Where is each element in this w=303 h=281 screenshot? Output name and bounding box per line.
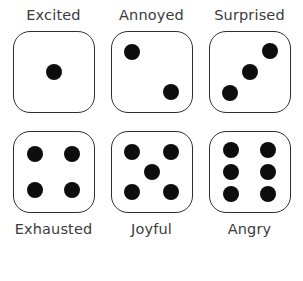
die-cell-joyful[interactable]: Joyful bbox=[109, 131, 194, 239]
die-cell-excited[interactable]: Excited bbox=[11, 6, 96, 113]
die-face-annoyed[interactable] bbox=[111, 31, 193, 113]
die-pip bbox=[124, 44, 140, 60]
die-face-surprised[interactable] bbox=[209, 31, 291, 113]
die-pip bbox=[46, 64, 62, 80]
die-label-joyful: Joyful bbox=[131, 220, 172, 239]
die-pip bbox=[64, 182, 80, 198]
die-pip bbox=[262, 43, 278, 59]
die-pip bbox=[223, 142, 239, 158]
die-pip bbox=[124, 184, 140, 200]
die-cell-angry[interactable]: Angry bbox=[207, 131, 292, 239]
die-pip bbox=[163, 144, 179, 160]
die-pip bbox=[27, 182, 43, 198]
die-cell-exhausted[interactable]: Exhausted bbox=[11, 131, 96, 239]
die-pip bbox=[163, 84, 179, 100]
die-pip bbox=[124, 144, 140, 160]
die-pip bbox=[223, 164, 239, 180]
die-pip bbox=[27, 146, 43, 162]
die-pip bbox=[144, 164, 160, 180]
die-pip bbox=[260, 142, 276, 158]
die-pip bbox=[260, 164, 276, 180]
emotion-dice-board: Excited Annoyed Surprised Exhausted Joyf… bbox=[0, 0, 303, 281]
dice-row-bottom: Exhausted Joyful Angry bbox=[0, 113, 303, 239]
die-label-annoyed: Annoyed bbox=[119, 6, 184, 25]
die-pip bbox=[222, 85, 238, 101]
die-pip bbox=[64, 146, 80, 162]
die-pip bbox=[242, 64, 258, 80]
die-face-joyful[interactable] bbox=[111, 131, 193, 213]
die-face-exhausted[interactable] bbox=[13, 131, 95, 213]
die-pip bbox=[223, 186, 239, 202]
die-cell-annoyed[interactable]: Annoyed bbox=[109, 6, 194, 113]
die-face-excited[interactable] bbox=[13, 31, 95, 113]
die-cell-surprised[interactable]: Surprised bbox=[207, 6, 292, 113]
die-label-surprised: Surprised bbox=[214, 6, 285, 25]
die-pip bbox=[260, 186, 276, 202]
die-label-exhausted: Exhausted bbox=[15, 220, 93, 239]
die-pip bbox=[163, 184, 179, 200]
die-label-excited: Excited bbox=[26, 6, 80, 25]
dice-row-top: Excited Annoyed Surprised bbox=[0, 0, 303, 113]
die-face-angry[interactable] bbox=[209, 131, 291, 213]
die-label-angry: Angry bbox=[228, 220, 272, 239]
